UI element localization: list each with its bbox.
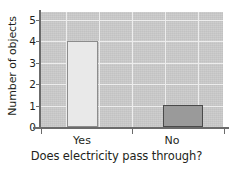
y-axis-title: Number of objects [7,6,19,126]
y-tick-label-2: 2 [22,79,36,89]
bar-chart: Number of objects 5 4 3 2 1 0 [0,0,233,169]
x-tick-mark-left [41,129,42,134]
y-tick-label-3: 3 [22,58,36,68]
plot-area [41,12,223,127]
x-tick-mark-right [224,129,225,134]
y-tick-label-1: 1 [22,101,36,111]
gridline-x-2 [99,12,100,127]
bar-yes[interactable] [67,41,98,127]
x-axis-line [33,127,229,129]
y-tick-label-5: 5 [22,15,36,25]
x-tick-label-no: No [142,135,202,147]
x-axis-title: Does electricity pass through? [0,150,233,163]
x-tick-label-yes: Yes [52,135,112,147]
bar-no[interactable] [163,105,203,127]
x-tick-mark-middle [132,129,133,134]
gridline-x-3 [132,12,133,127]
y-axis-line [39,10,41,129]
y-tick-label-4: 4 [22,36,36,46]
y-axis-tick-labels: 5 4 3 2 1 0 [20,0,36,169]
